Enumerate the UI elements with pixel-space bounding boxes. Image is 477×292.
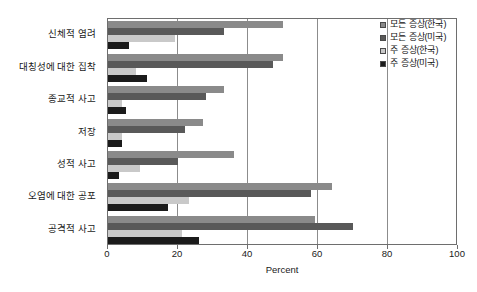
legend-item[interactable]: 모든 증상(미국)	[380, 31, 447, 44]
legend-label: 모든 증상(미국)	[390, 32, 447, 43]
legend-label: 주 증상(한국)	[390, 45, 439, 56]
bar	[108, 230, 182, 237]
bar	[108, 86, 224, 93]
bar-chart: 신체적 염려대칭성에 대한 집착종교적 사고저장성적 사고오염에 대한 공포공격…	[0, 0, 477, 292]
y-axis-label: 공격적 사고	[0, 223, 96, 234]
x-axis-title: Percent	[107, 264, 457, 275]
bar	[108, 190, 311, 197]
x-axis-tick-label: 0	[87, 248, 127, 259]
y-axis-label: 성적 사고	[0, 158, 96, 169]
bar	[108, 216, 315, 223]
bar	[108, 204, 168, 211]
y-axis-label: 종교적 사고	[0, 93, 96, 104]
x-axis-tick-label: 80	[367, 248, 407, 259]
bar	[108, 21, 283, 28]
legend-item[interactable]: 모든 증상(한국)	[380, 18, 447, 31]
gridline	[317, 19, 318, 244]
bar	[108, 100, 122, 107]
legend-label: 주 증상(미국)	[390, 58, 439, 69]
legend-swatch-icon	[380, 61, 386, 67]
y-axis-label: 신체적 염려	[0, 28, 96, 39]
legend-swatch-icon	[380, 35, 386, 41]
bar	[108, 28, 224, 35]
x-axis-tick-label: 60	[297, 248, 337, 259]
bar	[108, 54, 283, 61]
bar	[108, 119, 203, 126]
bar	[108, 75, 147, 82]
bar	[108, 172, 119, 179]
x-axis-tick-label: 100	[437, 248, 477, 259]
legend-swatch-icon	[380, 22, 386, 28]
legend-item[interactable]: 주 증상(미국)	[380, 57, 447, 70]
bar	[108, 237, 199, 244]
bar	[108, 151, 234, 158]
bar	[108, 133, 122, 140]
legend-label: 모든 증상(한국)	[390, 19, 447, 30]
x-axis-tick-label: 20	[157, 248, 197, 259]
x-axis-tick-label: 40	[227, 248, 267, 259]
bar	[108, 165, 140, 172]
bar	[108, 107, 126, 114]
bar	[108, 68, 136, 75]
legend-swatch-icon	[380, 48, 386, 54]
chart-legend: 모든 증상(한국)모든 증상(미국)주 증상(한국)주 증상(미국)	[378, 16, 449, 72]
legend-item[interactable]: 주 증상(한국)	[380, 44, 447, 57]
bar	[108, 61, 273, 68]
bar	[108, 140, 122, 147]
bar	[108, 158, 178, 165]
bar	[108, 126, 185, 133]
y-axis-label: 오염에 대한 공포	[0, 190, 96, 201]
bar	[108, 197, 189, 204]
bar	[108, 183, 332, 190]
bar	[108, 42, 129, 49]
bar	[108, 93, 206, 100]
bar	[108, 223, 353, 230]
bar	[108, 35, 175, 42]
y-axis-label: 대칭성에 대한 집착	[0, 61, 96, 72]
y-axis-label: 저장	[0, 126, 96, 137]
